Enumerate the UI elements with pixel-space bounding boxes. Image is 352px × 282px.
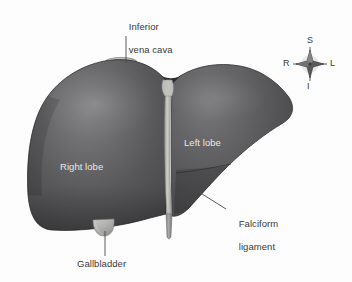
gallbladder-structure — [93, 219, 114, 236]
label-inferior-vena-cava: Inferior vena cava — [118, 9, 173, 67]
orientation-compass-rose — [293, 47, 327, 81]
label-falciform-ligament-line1: Falciform — [239, 218, 279, 229]
label-inferior-vena-cava-line2: vena cava — [129, 44, 173, 55]
compass-label-inferior: I — [307, 82, 310, 91]
right-lobe-shape — [20, 60, 180, 240]
liver-illustration — [0, 0, 352, 282]
label-falciform-ligament: Falciform ligament — [228, 206, 278, 264]
label-left-lobe: Left lobe — [184, 137, 221, 149]
falciform-free-edge — [166, 214, 172, 239]
label-falciform-ligament-line2: ligament — [239, 241, 275, 252]
label-inferior-vena-cava-line1: Inferior — [129, 21, 159, 32]
compass-label-superior: S — [307, 36, 313, 45]
liver-anatomy-figure: Inferior vena cava Right lobe Left lobe … — [0, 0, 352, 282]
label-right-lobe: Right lobe — [60, 161, 103, 173]
compass-label-left: L — [330, 59, 335, 68]
compass-label-right: R — [283, 59, 290, 68]
label-gallbladder: Gallbladder — [77, 258, 126, 270]
